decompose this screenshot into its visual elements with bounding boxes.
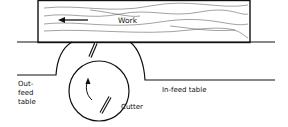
cutter-knife-bottom xyxy=(101,97,110,113)
work-board xyxy=(38,1,250,43)
jointer-diagram xyxy=(0,0,288,127)
cutterhead-circle xyxy=(69,61,129,121)
cutter-knife-top xyxy=(90,43,96,57)
infeed-label: In-feed table xyxy=(162,87,207,94)
outfeed-label-2: feed xyxy=(18,90,34,97)
outfeed-label-3: table xyxy=(18,99,36,106)
work-label: Work xyxy=(118,17,137,24)
cutter-label: Cutter xyxy=(121,104,143,111)
outfeed-table-profile xyxy=(17,42,72,75)
outfeed-label-1: Out- xyxy=(18,81,33,88)
infeed-table-profile xyxy=(130,42,275,80)
